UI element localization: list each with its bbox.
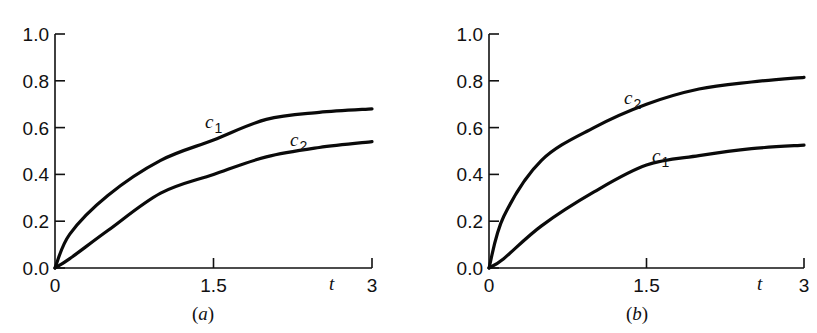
y-tick-label: 1.0 xyxy=(457,24,483,45)
x-tick-label: 1.5 xyxy=(200,275,226,296)
y-tick-label: 0.8 xyxy=(23,71,49,92)
x-tick-label: 3 xyxy=(367,275,378,296)
y-tick-label: 0.0 xyxy=(23,258,49,279)
figure: 0.00.20.40.60.81.0 01.53 c1c2 t (a) 0.00… xyxy=(0,0,817,333)
panel-a-series-labels: c1c2 xyxy=(205,111,307,154)
curve-c2 xyxy=(55,142,372,268)
panel-a-y-ticks: 0.00.20.40.60.81.0 xyxy=(23,24,65,279)
y-tick-label: 0.6 xyxy=(457,118,483,139)
x-tick-label: 1.5 xyxy=(633,275,659,296)
y-tick-label: 0.2 xyxy=(457,211,483,232)
series-label-c2: c2 xyxy=(624,87,641,112)
y-tick-label: 0.4 xyxy=(457,164,484,185)
y-tick-label: 0.6 xyxy=(23,118,49,139)
y-tick-label: 0.4 xyxy=(23,164,50,185)
x-tick-label: 0 xyxy=(50,275,61,296)
panel-b-y-ticks: 0.00.20.40.60.81.0 xyxy=(457,24,499,279)
panel-b-caption: (b) xyxy=(626,303,648,325)
y-tick-label: 0.2 xyxy=(23,211,49,232)
x-tick-label: 0 xyxy=(484,275,495,296)
y-tick-label: 0.0 xyxy=(457,258,483,279)
series-label-c1: c1 xyxy=(652,145,669,170)
panel-a: 0.00.20.40.60.81.0 01.53 c1c2 t (a) xyxy=(23,24,378,325)
panel-a-caption: (a) xyxy=(192,303,214,325)
panel-b: 0.00.20.40.60.81.0 01.53 c2c1 t (b) xyxy=(457,24,810,325)
panel-b-axes xyxy=(489,34,804,268)
y-tick-label: 0.8 xyxy=(457,71,483,92)
panel-a-x-axis-label: t xyxy=(329,273,335,294)
curve-c2 xyxy=(489,77,804,268)
y-tick-label: 1.0 xyxy=(23,24,49,45)
x-tick-label: 3 xyxy=(799,275,810,296)
panel-b-curves xyxy=(489,77,804,268)
panel-b-x-axis-label: t xyxy=(757,273,763,294)
series-label-c1: c1 xyxy=(205,111,222,136)
